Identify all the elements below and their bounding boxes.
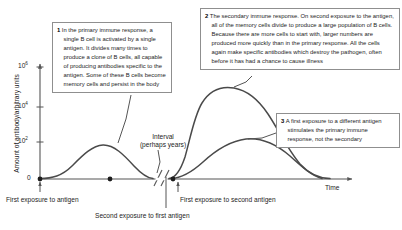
marker-dot-first-exposure (38, 177, 43, 182)
marker-dot-second-exposure (171, 177, 176, 182)
leader-callout-1 (118, 95, 131, 143)
marker-dot-mid-axis (108, 177, 113, 182)
y-tick-exponent: 4 (25, 101, 28, 106)
callout-box-2: 2The secondary immune response. On secon… (200, 8, 400, 70)
interval-label: Interval (perhaps years) (132, 133, 194, 149)
x-axis-label: Time (325, 184, 339, 191)
y-tick-label-zero: 0 (27, 174, 31, 181)
interval-label-line1: Interval (152, 133, 174, 140)
callout-box-3: 3A first exposure to a different antigen… (276, 113, 400, 148)
y-axis-label: Amount of antibody/arbitrary units (13, 56, 20, 192)
y-tick-label-10e2: 102 (18, 136, 28, 144)
y-tick-exponent: 6 (25, 61, 28, 66)
callout-3-body: A first exposure to a different antigen … (286, 118, 382, 142)
callout-1-text: 1In the primary immune response, a singl… (57, 26, 167, 89)
label-first-exposure-to-antigen: First exposure to antigen (6, 196, 79, 203)
callout-3-text: 3A first exposure to a different antigen… (281, 117, 395, 144)
leader-interval-label (157, 150, 160, 173)
callout-2-body: The secondary immune response. On second… (210, 13, 394, 64)
immune-response-figure: Amount of antibody/arbitrary units 106 1… (0, 0, 402, 230)
y-tick-label-10e4: 104 (18, 101, 28, 109)
label-second-exposure-to-first-antigen: Second exposure to first antigen (95, 212, 190, 219)
callout-2-text: 2The secondary immune response. On secon… (205, 12, 395, 66)
interval-label-line2: (perhaps years) (140, 141, 186, 148)
callout-1-body: In the primary immune response, a single… (62, 27, 166, 87)
y-tick-exponent: 2 (25, 136, 28, 141)
y-tick-label-10e6: 106 (18, 61, 28, 69)
leader-callout-2 (234, 76, 252, 87)
callout-box-1: 1In the primary immune response, a singl… (52, 22, 172, 93)
label-first-exposure-to-second-antigen: First exposure to second antigen (180, 196, 276, 203)
curve-primary-response (40, 145, 153, 179)
